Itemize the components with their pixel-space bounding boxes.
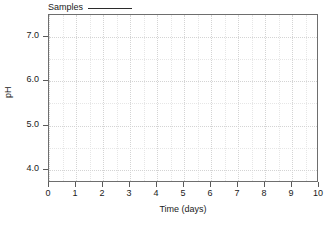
x-axis-tick-label: 3 [114, 189, 144, 198]
x-axis-tick [129, 182, 130, 187]
y-axis-tick-label: 4.0 [13, 164, 39, 173]
legend-item-label-samples: Samples [48, 3, 83, 12]
x-axis-tick-label: 6 [195, 189, 225, 198]
plot-area [48, 14, 318, 182]
x-axis-tick-label: 2 [87, 189, 117, 198]
x-axis-tick [264, 182, 265, 187]
y-axis-tick-label: 7.0 [13, 31, 39, 40]
x-axis-tick-label: 9 [276, 189, 306, 198]
y-axis-tick [43, 80, 48, 81]
data-series-layer [49, 15, 317, 181]
y-axis-tick-label: 5.0 [13, 120, 39, 129]
x-axis-title: Time (days) [48, 205, 318, 214]
y-axis-title: pH [4, 86, 13, 98]
x-axis-tick [237, 182, 238, 187]
y-axis-tick [43, 169, 48, 170]
x-axis-tick-label: 10 [303, 189, 333, 198]
legend-line-swatch-samples [88, 8, 132, 9]
x-axis-tick [48, 182, 49, 187]
chart-figure: Samples 0123456789104.05.06.07.0 Time (d… [0, 0, 335, 233]
x-axis-tick-label: 1 [60, 189, 90, 198]
x-axis-tick [318, 182, 319, 187]
x-axis-tick [102, 182, 103, 187]
x-axis-tick [291, 182, 292, 187]
x-axis-tick-label: 7 [222, 189, 252, 198]
y-axis-tick [43, 36, 48, 37]
x-axis-tick [210, 182, 211, 187]
y-axis-tick-label: 6.0 [13, 75, 39, 84]
x-axis-tick-label: 4 [141, 189, 171, 198]
y-axis-tick [43, 125, 48, 126]
x-axis-tick [156, 182, 157, 187]
x-axis-tick-label: 8 [249, 189, 279, 198]
x-axis-tick-label: 5 [168, 189, 198, 198]
chart-legend: Samples [48, 0, 132, 14]
x-axis-tick [183, 182, 184, 187]
x-axis-tick-label: 0 [33, 189, 63, 198]
x-axis-tick [75, 182, 76, 187]
